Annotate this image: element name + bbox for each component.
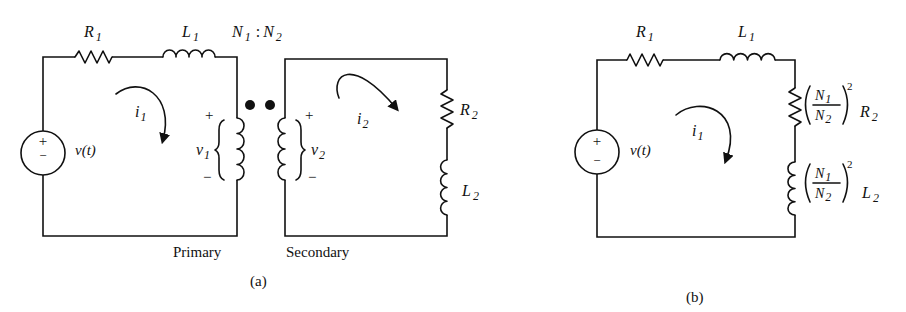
reflected-inductor-l2-icon: [788, 162, 795, 215]
reflected-r2-denominator: N2: [814, 108, 831, 126]
caption-b: (b): [686, 289, 704, 306]
l1-label: L1: [181, 23, 199, 44]
resistor-r1-icon: [627, 54, 663, 66]
secondary-coil-icon: [278, 118, 285, 180]
reflected-l2-numerator: N1: [814, 166, 831, 184]
current-i2-label: i2: [357, 110, 368, 131]
v2-minus: −: [308, 169, 316, 185]
current-i1-label-b: i1: [692, 122, 703, 143]
reflected-l2-exponent: 2: [847, 158, 853, 170]
resistor-r1-icon: [75, 51, 112, 63]
turns-ratio-label: N1:N2: [231, 23, 282, 44]
v1-minus: −: [203, 169, 211, 185]
current-i1-label: i1: [135, 103, 146, 124]
v1-brace-icon: [215, 120, 224, 180]
v1-label: v1: [196, 141, 210, 162]
secondary-label: Secondary: [286, 244, 350, 260]
reflected-resistor-r2-icon: [789, 88, 801, 126]
r2-label: R2: [459, 101, 478, 122]
primary-wire: [43, 57, 237, 236]
source-label: v(t): [75, 142, 96, 159]
l1-label-b: L1: [737, 23, 755, 44]
source-minus: −: [39, 148, 46, 163]
primary-label: Primary: [173, 244, 222, 260]
equivalent-wire: [597, 60, 795, 237]
source-label-b: v(t): [630, 142, 651, 159]
v2-label: v2: [311, 141, 325, 162]
inductor-l1-icon: [720, 54, 775, 60]
source-plus-b: +: [593, 133, 601, 149]
secondary-wire: [285, 59, 447, 236]
current-i2-arrow-icon: [337, 74, 396, 108]
polarity-dot-primary: [245, 100, 255, 110]
r1-label: R1: [83, 23, 102, 44]
source-minus-b: −: [593, 153, 600, 168]
inductor-l2-icon: [441, 160, 447, 215]
source-plus: +: [39, 133, 47, 149]
reflected-l2-denominator: N2: [814, 186, 831, 204]
resistor-r2-icon: [441, 90, 453, 128]
polarity-dot-secondary: [265, 100, 275, 110]
l2-label: L2: [461, 182, 479, 203]
primary-coil-icon: [237, 118, 244, 180]
circuit-diagram: − + v(t) R1 L1 N1:N2 i1 i2 + v1 − + v2 −…: [0, 0, 906, 312]
v1-plus: +: [205, 107, 213, 123]
v2-brace-icon: [296, 120, 305, 180]
reflected-r2-numerator: N1: [814, 88, 831, 106]
reflected-r2-symbol: R2: [859, 103, 878, 124]
inductor-l1-icon: [163, 50, 215, 57]
reflected-r2-exponent: 2: [847, 80, 853, 92]
caption-a: (a): [250, 273, 267, 290]
reflected-l2-symbol: L2: [861, 184, 879, 205]
v2-plus: +: [305, 107, 313, 123]
r1-label-b: R1: [635, 23, 654, 44]
figure-b: [575, 54, 848, 237]
